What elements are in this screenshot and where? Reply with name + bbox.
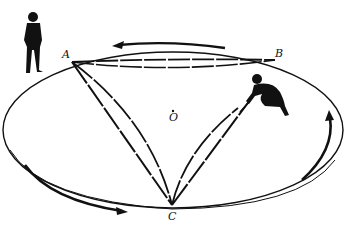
standing-observer-figure — [24, 12, 43, 73]
path-a-c — [72, 62, 172, 205]
point-b-label: B — [274, 47, 283, 60]
bottom-left-arrow — [25, 165, 128, 215]
point-c-label: C — [168, 210, 177, 223]
right-arrow — [302, 110, 334, 180]
point-a-label: A — [61, 48, 70, 61]
path-c-b — [172, 100, 250, 205]
crouching-person-figure — [240, 74, 289, 116]
point-o-label: O — [169, 111, 178, 124]
rotating-platform-diagram: A B C O — [0, 0, 347, 235]
top-arrow — [112, 41, 225, 49]
chord-a-b — [72, 59, 275, 67]
platform — [3, 52, 343, 209]
